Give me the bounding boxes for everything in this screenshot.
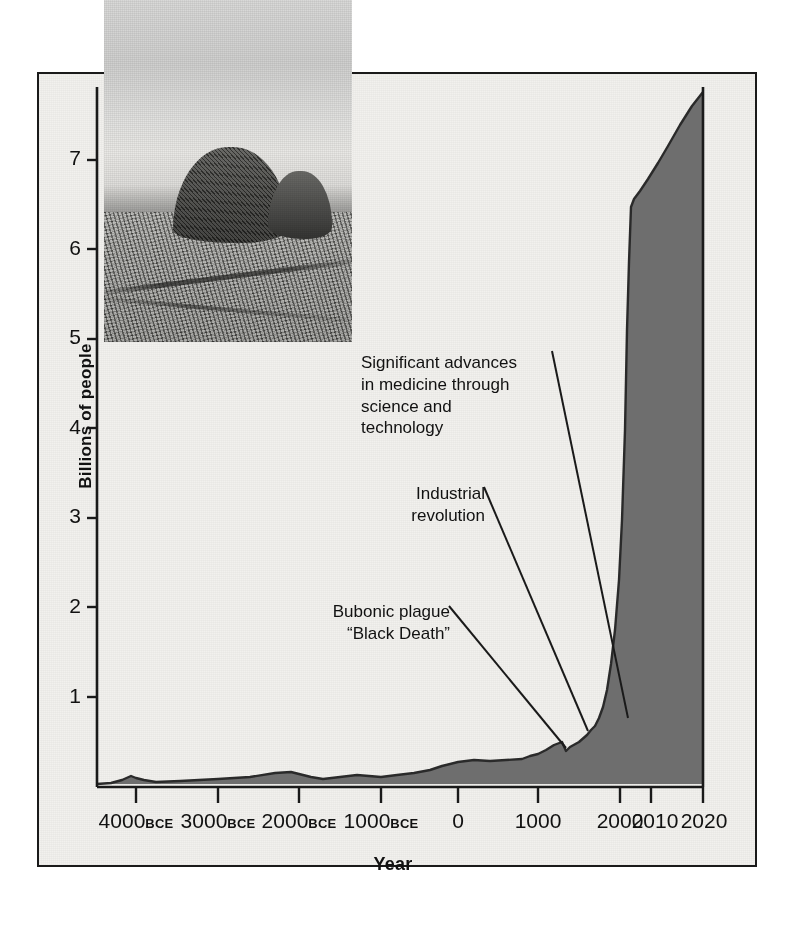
y-tick-label-7: 7 [55,146,81,170]
x-axis-title: Year [0,854,786,875]
photo-film-grain [104,0,352,342]
x-tick-label-1000-bce: 1000BCE [344,809,419,833]
x-tick-number-1000-bce: 1000 [344,809,391,832]
x-tick-era-2000-bce: BCE [308,816,336,831]
x-tick-number-2020: 2020 [681,809,728,832]
x-tick-number-4000-bce: 4000 [99,809,146,832]
x-tick-era-1000-bce: BCE [390,816,418,831]
x-tick-number-1000: 1000 [515,809,562,832]
x-tick-label-1000: 1000 [515,809,562,833]
leader-line-industrial-revolution [484,487,588,731]
x-tick-label-0: 0 [452,809,464,833]
x-tick-label-2010: 2010 [632,809,679,833]
leader-line-bubonic-plague [449,606,566,748]
annotation-medicine-advances: Significant advances in medicine through… [361,352,556,439]
x-tick-number-3000-bce: 3000 [181,809,228,832]
x-tick-label-3000-bce: 3000BCE [181,809,256,833]
x-tick-number-2010: 2010 [632,809,679,832]
aerial-city-photo [104,0,352,342]
x-tick-label-2000-bce: 2000BCE [262,809,337,833]
y-tick-label-6: 6 [55,236,81,260]
x-axis-ticks [136,787,703,803]
y-tick-label-2: 2 [55,594,81,618]
x-tick-label-2020: 2020 [681,809,728,833]
annotation-industrial-revolution: Industrial revolution [340,483,485,527]
x-tick-era-4000-bce: BCE [145,816,173,831]
y-axis-title: Billions of people [76,296,96,536]
x-tick-number-0: 0 [452,809,464,832]
x-tick-label-4000-bce: 4000BCE [99,809,174,833]
x-tick-era-3000-bce: BCE [227,816,255,831]
y-tick-label-1: 1 [55,684,81,708]
figure-root: 7 6 5 4 3 2 1 Billions of people 4000BCE… [0,0,786,951]
annotation-bubonic-plague: Bubonic plague “Black Death” [300,601,450,645]
x-tick-number-2000-bce: 2000 [262,809,309,832]
leader-line-medicine-advances [552,351,628,718]
